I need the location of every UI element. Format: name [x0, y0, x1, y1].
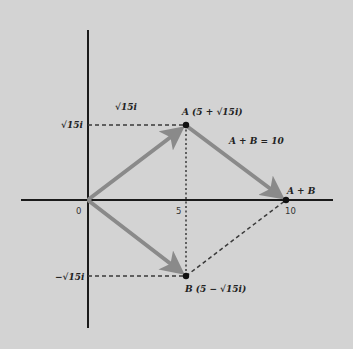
point-a-plus-b	[283, 197, 289, 203]
y-tick-negative: −√15i	[55, 272, 85, 282]
point-a	[183, 122, 189, 128]
point-a-label: A (5 + √15i)	[181, 107, 243, 117]
vector-a	[89, 130, 180, 199]
x-tick-5: 5	[176, 206, 181, 216]
point-b-label: B (5 − √15i)	[184, 284, 246, 294]
sum-equation-label: A + B = 10	[228, 136, 284, 146]
origin-label: 0	[76, 206, 81, 216]
point-b	[183, 273, 189, 279]
complex-plane-diagram: √15i A (5 + √15i) A + B = 10 A + B B (5 …	[0, 0, 353, 349]
guide-b-to-sum	[186, 200, 286, 276]
top-magnitude-label: √15i	[115, 102, 137, 112]
x-tick-10: 10	[285, 206, 296, 216]
sum-point-label: A + B	[286, 186, 316, 196]
vector-b	[89, 201, 180, 271]
y-tick-positive: √15i	[61, 120, 83, 130]
